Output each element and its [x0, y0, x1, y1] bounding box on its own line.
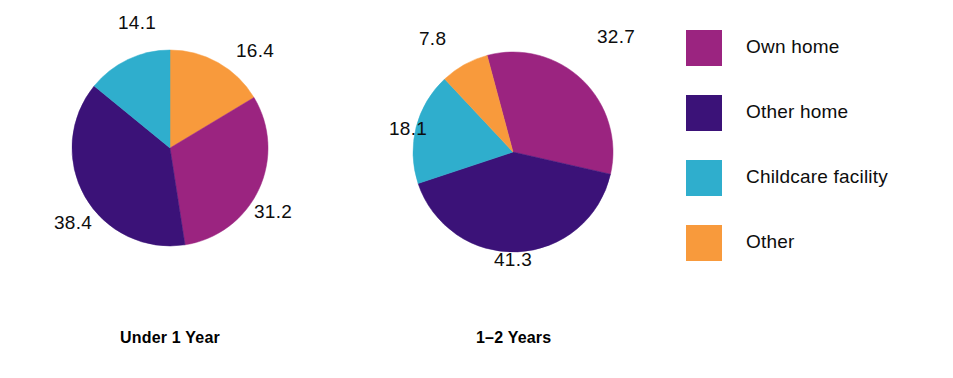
value-label-own-home: 31.2	[254, 202, 292, 221]
pie-chart-under-1-year	[68, 46, 272, 250]
legend-label: Other	[746, 231, 795, 253]
legend-swatch-icon	[686, 95, 722, 131]
legend-label: Own home	[746, 36, 839, 58]
legend-swatch-icon	[686, 225, 722, 261]
value-label-other-home: 41.3	[494, 250, 532, 269]
legend-item-other-home[interactable]: Other home	[686, 95, 946, 160]
chart-title-under-1-year: Under 1 Year	[120, 329, 220, 347]
value-label-childcare-facility: 18.1	[389, 119, 427, 138]
legend-item-childcare-facility[interactable]: Childcare facility	[686, 160, 946, 225]
value-label-other: 7.8	[419, 29, 446, 48]
chart-canvas: 16.431.238.414.132.741.318.17.8 Under 1 …	[0, 0, 953, 378]
value-label-other: 16.4	[236, 41, 274, 60]
pie-chart-1-2-years	[409, 48, 617, 256]
legend-item-other[interactable]: Other	[686, 225, 946, 290]
value-label-childcare-facility: 14.1	[118, 13, 156, 32]
legend-label: Other home	[746, 101, 848, 123]
legend-swatch-icon	[686, 160, 722, 196]
value-label-own-home: 32.7	[597, 27, 635, 46]
chart-title-1-2-years: 1–2 Years	[476, 329, 551, 347]
legend-item-own-home[interactable]: Own home	[686, 30, 946, 95]
legend-swatch-icon	[686, 30, 722, 66]
legend-label: Childcare facility	[746, 166, 888, 188]
pie-svg-1-2-years	[409, 48, 617, 256]
chart-legend: Own homeOther homeChildcare facilityOthe…	[686, 30, 946, 290]
pie-svg-under-1-year	[68, 46, 272, 250]
value-label-other-home: 38.4	[54, 213, 92, 232]
